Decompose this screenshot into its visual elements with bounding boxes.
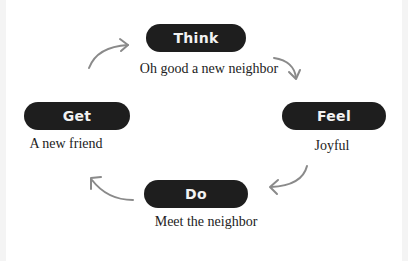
arrow-get-to-think-icon <box>89 45 128 68</box>
node-get: Get <box>24 102 130 130</box>
node-get-label: Get <box>63 108 92 124</box>
node-think: Think <box>146 24 246 52</box>
arrow-feel-to-do-icon <box>271 166 307 187</box>
node-get-caption: A new friend <box>29 136 102 152</box>
node-feel-label: Feel <box>317 108 351 124</box>
node-do-caption: Meet the neighbor <box>155 214 258 230</box>
node-think-caption: Oh good a new neighbor <box>140 61 278 77</box>
node-do: Do <box>144 180 248 208</box>
arrow-do-to-get-icon <box>92 180 133 200</box>
node-think-label: Think <box>173 30 218 46</box>
node-feel-caption: Joyful <box>315 138 350 154</box>
node-do-label: Do <box>185 186 207 202</box>
node-feel: Feel <box>282 102 386 130</box>
